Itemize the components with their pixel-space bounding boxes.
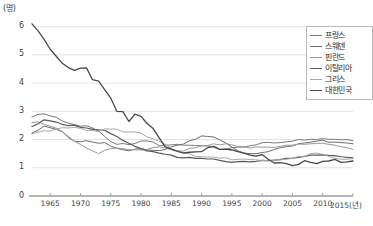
legend-item-south-korea[interactable]: 대한민국 (310, 85, 368, 96)
legend-swatch-south-korea (310, 90, 322, 91)
x-tick-label-1995: 1995 (219, 199, 245, 208)
legend-item-greece[interactable]: 그리스 (310, 74, 368, 85)
fertility-rate-line-chart: (명) 0123456 1965197019751980198519901995… (0, 0, 373, 226)
legend-item-france[interactable]: 프랑스 (310, 30, 368, 41)
y-tick-label-0: 0 (6, 191, 24, 200)
legend-swatch-sweden (310, 46, 322, 47)
y-tick-label-5: 5 (6, 49, 24, 58)
x-tick-label-1990: 1990 (189, 199, 215, 208)
x-tick-label-2015: 2015(년) (325, 199, 367, 210)
legend-swatch-france (310, 35, 322, 36)
gridlines (32, 27, 353, 168)
legend-item-sweden[interactable]: 스웨덴 (310, 41, 368, 52)
y-axis-unit-label: (명) (3, 2, 16, 13)
y-tick-label-1: 1 (6, 162, 24, 171)
x-tick-label-2005: 2005 (279, 199, 305, 208)
y-tick-label-2: 2 (6, 134, 24, 143)
legend-label-italy: 이탈리아 (325, 63, 352, 74)
legend: 프랑스 스웨덴 핀란드 이탈리아 그리스 대한민국 (306, 26, 373, 100)
legend-item-italy[interactable]: 이탈리아 (310, 63, 368, 74)
legend-label-finland: 핀란드 (325, 52, 345, 63)
y-tick-label-6: 6 (6, 21, 24, 30)
legend-swatch-finland (310, 57, 322, 58)
x-tick-label-1975: 1975 (98, 199, 124, 208)
x-tick-label-1970: 1970 (67, 199, 93, 208)
legend-item-finland[interactable]: 핀란드 (310, 52, 368, 63)
legend-label-greece: 그리스 (325, 74, 345, 85)
legend-swatch-greece (310, 79, 322, 80)
legend-label-sweden: 스웨덴 (325, 41, 345, 52)
x-tick-label-2000: 2000 (249, 199, 275, 208)
legend-swatch-italy (310, 68, 322, 69)
x-tick-label-1980: 1980 (128, 199, 154, 208)
y-tick-label-3: 3 (6, 106, 24, 115)
legend-label-france: 프랑스 (325, 30, 345, 41)
series-lines (32, 24, 353, 166)
x-tick-label-1965: 1965 (37, 199, 63, 208)
y-tick-label-4: 4 (6, 78, 24, 87)
x-tick-label-1985: 1985 (158, 199, 184, 208)
legend-label-south-korea: 대한민국 (325, 85, 352, 96)
